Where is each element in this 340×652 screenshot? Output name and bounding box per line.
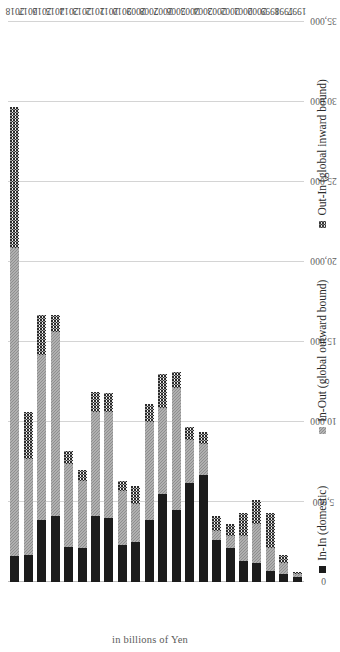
legend-item-out-in[interactable]: Out-In (global inward bound) (316, 79, 328, 227)
bar-segment[interactable] (91, 412, 100, 516)
bar-stack[interactable] (158, 374, 167, 582)
bar-segment[interactable] (118, 545, 127, 582)
bar-segment[interactable] (37, 315, 46, 355)
plot-area (8, 22, 304, 582)
bar-segment[interactable] (172, 372, 181, 388)
bar-segment[interactable] (145, 520, 154, 582)
bar-segment[interactable] (158, 374, 167, 408)
bar-segment[interactable] (293, 572, 302, 574)
bar-stack[interactable] (78, 470, 87, 582)
bar-segment[interactable] (24, 459, 33, 555)
bar-segment[interactable] (252, 500, 261, 524)
bar-stack[interactable] (104, 393, 113, 582)
bar-segment[interactable] (252, 524, 261, 562)
bar-segment[interactable] (24, 412, 33, 458)
bar-segment[interactable] (212, 531, 221, 541)
bar-stack[interactable] (199, 432, 208, 582)
bar-stack[interactable] (293, 572, 302, 582)
bar-segment[interactable] (226, 536, 235, 549)
bar-segment[interactable] (199, 432, 208, 445)
bar-segment[interactable] (51, 516, 60, 582)
bar-segment[interactable] (172, 510, 181, 582)
bar-stack[interactable] (24, 412, 33, 582)
bar-segment[interactable] (78, 548, 87, 582)
bar-stack[interactable] (279, 555, 288, 582)
bar-stack[interactable] (172, 372, 181, 582)
bar-segment[interactable] (185, 427, 194, 440)
bar-segment[interactable] (279, 555, 288, 563)
bar-segment[interactable] (24, 555, 33, 582)
bar-segment[interactable] (239, 561, 248, 582)
bar-segment[interactable] (158, 408, 167, 494)
bar-segment[interactable] (279, 563, 288, 574)
bar-segment[interactable] (104, 412, 113, 518)
bar-stack[interactable] (266, 513, 275, 582)
legend-label: Out-In (global inward bound) (316, 79, 328, 215)
bar-segment[interactable] (131, 504, 140, 542)
bar-segment[interactable] (64, 547, 73, 582)
category-axis-tick: 2018 (8, 0, 21, 22)
legend-label: In-Out (global outward bound) (316, 280, 328, 422)
bar-segment[interactable] (199, 475, 208, 582)
bar-segment[interactable] (266, 513, 275, 548)
bar-segment[interactable] (158, 494, 167, 582)
bar-segment[interactable] (239, 513, 248, 535)
legend-label: In-In (domestic) (316, 486, 328, 561)
bar-segment[interactable] (104, 393, 113, 412)
bar-stack[interactable] (51, 315, 60, 582)
in-in-swatch-icon (319, 566, 326, 573)
bar-stack[interactable] (145, 404, 154, 582)
bar-segment[interactable] (10, 248, 19, 557)
bar-segment[interactable] (131, 486, 140, 504)
bar-stack[interactable] (64, 451, 73, 582)
bar-segment[interactable] (118, 491, 127, 545)
bar-segment[interactable] (279, 574, 288, 582)
bar-segment[interactable] (131, 542, 140, 582)
bar-segment[interactable] (37, 520, 46, 582)
bar-segment[interactable] (64, 464, 73, 547)
bar-stack[interactable] (131, 486, 140, 582)
legend-item-in-out[interactable]: In-Out (global outward bound) (316, 280, 328, 434)
bar-segment[interactable] (185, 440, 194, 483)
bar-segment[interactable] (226, 524, 235, 535)
bar-segment[interactable] (172, 388, 181, 510)
bar-segment[interactable] (91, 392, 100, 413)
bar-segment[interactable] (293, 577, 302, 582)
bar-stack[interactable] (91, 392, 100, 582)
bar-segment[interactable] (64, 451, 73, 464)
bar-segment[interactable] (185, 483, 194, 582)
bar-segment[interactable] (293, 574, 302, 577)
bar-segment[interactable] (212, 516, 221, 530)
bar-segment[interactable] (10, 556, 19, 582)
bar-stack[interactable] (37, 315, 46, 582)
bar-segment[interactable] (78, 481, 87, 548)
bar-segment[interactable] (212, 540, 221, 582)
bar-segment[interactable] (145, 422, 154, 520)
bar-stack[interactable] (118, 481, 127, 582)
legend-item-in-in[interactable]: In-In (domestic) (316, 486, 328, 573)
in-out-swatch-icon (319, 427, 326, 434)
bar-segment[interactable] (51, 332, 60, 516)
bar-segment[interactable] (145, 404, 154, 422)
bar-segment[interactable] (252, 563, 261, 582)
bar-segment[interactable] (118, 481, 127, 491)
bar-stack[interactable] (252, 500, 261, 582)
bar-stack[interactable] (185, 427, 194, 582)
bar-stack[interactable] (212, 516, 221, 582)
bar-stack[interactable] (10, 107, 19, 582)
bar-segment[interactable] (104, 518, 113, 582)
bar-segment[interactable] (226, 548, 235, 582)
bar-segment[interactable] (266, 548, 275, 570)
bar-segment[interactable] (199, 444, 208, 474)
bar-segment[interactable] (78, 470, 87, 481)
bar-segment[interactable] (37, 355, 46, 520)
bar-segment[interactable] (10, 107, 19, 248)
bar-segment[interactable] (239, 536, 248, 562)
bar-stack[interactable] (239, 513, 248, 582)
bar-segment[interactable] (266, 571, 275, 582)
bar-stack[interactable] (226, 524, 235, 582)
bar-segment[interactable] (51, 315, 60, 333)
bar-segment[interactable] (91, 516, 100, 582)
